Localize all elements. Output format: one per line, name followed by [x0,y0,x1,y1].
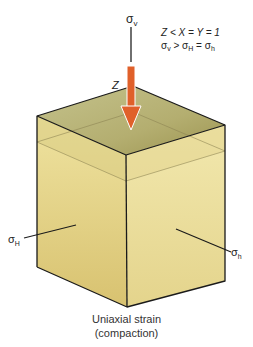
sigma-v-label: σv [126,12,137,28]
sigma-H-label: σH [8,233,20,247]
sigma-h-label: σh [231,246,242,260]
relation-line-2: σv > σH = σh [161,40,215,52]
caption-title: Uniaxial strain [0,313,253,326]
uniaxial-strain-diagram: σv Z Z < X = Y = 1 σv > σH = σh σH σh [0,0,253,347]
z-label: Z [111,79,120,91]
relation-line-1: Z < X = Y = 1 [160,27,220,38]
caption-subtitle: (compaction) [0,327,253,340]
